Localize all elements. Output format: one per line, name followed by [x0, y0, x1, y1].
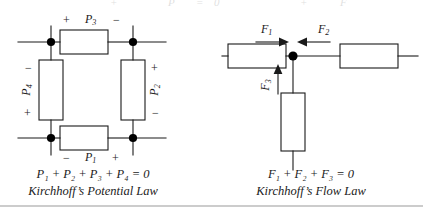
resistor-p4	[39, 60, 63, 120]
caption-left-title: Kirchhoff’s Potential Law	[0, 183, 186, 200]
junction-node-top-right	[129, 38, 137, 46]
polarity-p2-minus: −	[152, 107, 159, 119]
label-p3-sub: 3	[92, 18, 96, 27]
label-f1-sub: 1	[268, 28, 272, 37]
label-f3: F3	[259, 79, 273, 90]
label-f3-base: F	[258, 83, 272, 90]
junction-node-center	[288, 51, 297, 60]
junction-node-top-left	[47, 38, 55, 46]
polarity-p1-plus: +	[112, 152, 119, 164]
label-f2-sub: 2	[325, 28, 329, 37]
resistor-p1	[60, 126, 108, 150]
label-f3-sub: 3	[264, 79, 273, 83]
label-p2-sub: 2	[153, 84, 162, 88]
arrow-head-f1	[279, 38, 289, 47]
polarity-p3-plus: +	[63, 14, 70, 26]
polarity-p1-minus: −	[63, 152, 70, 164]
arrow-head-f3	[274, 64, 283, 74]
label-p3: P3	[85, 13, 96, 27]
figure-container: + P = 0 + F	[0, 0, 423, 213]
polarity-p4-minus: −	[25, 62, 32, 74]
caption-right: F₁ + F₂ + F₃ = 0 Kirchhoff’s Flow Law	[218, 166, 404, 199]
caption-left: P₁ + P₂ + P₃ + P₄ = 0 Kirchhoff’s Potent…	[0, 166, 186, 199]
resistor-p3	[60, 30, 108, 54]
resistor-p2	[121, 60, 145, 120]
caption-right-title: Kirchhoff’s Flow Law	[218, 183, 404, 200]
caption-left-equation: P₁ + P₂ + P₃ + P₄ = 0	[0, 166, 186, 183]
label-p2: P2	[148, 84, 162, 95]
label-p4-base: P	[19, 88, 33, 95]
flow-box-bottom	[281, 93, 305, 151]
flow-box-left	[228, 44, 286, 68]
label-p1: P1	[85, 151, 96, 165]
caption-right-equation: F₁ + F₂ + F₃ = 0	[218, 166, 404, 183]
label-p1-sub: 1	[92, 156, 96, 165]
label-p4-sub: 4	[25, 84, 34, 88]
junction-node-bottom-left	[47, 134, 55, 142]
label-p4: P4	[20, 84, 34, 95]
label-f2: F2	[318, 23, 329, 37]
label-p2-base: P	[147, 88, 161, 95]
arrow-head-f2	[297, 38, 307, 47]
junction-node-bottom-right	[129, 134, 137, 142]
label-f1: F1	[261, 23, 272, 37]
polarity-p3-minus: −	[113, 14, 120, 26]
polarity-p2-plus: +	[151, 62, 158, 74]
polarity-p4-plus: +	[24, 107, 31, 119]
flow-box-right	[340, 44, 398, 68]
